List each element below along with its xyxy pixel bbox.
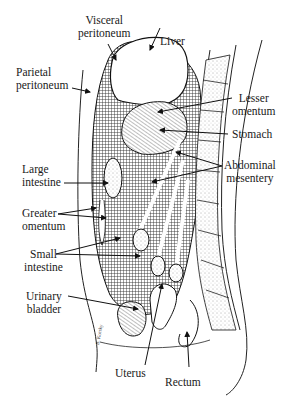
label-abdominal-mesentery: Abdominal mesentery — [224, 159, 276, 185]
label-uterus: Uterus — [115, 367, 146, 380]
label-rectum: Rectum — [165, 376, 201, 389]
label-greater-omentum: Greater omentum — [22, 207, 65, 233]
label-small-intestine: Small intestine — [24, 248, 63, 274]
label-liver: Liver — [160, 35, 185, 48]
label-visceral-peritoneum: Visceral peritoneum — [78, 14, 130, 40]
artist-signature: B. Korsky — [95, 324, 104, 346]
label-large-intestine: Large intestine — [22, 163, 61, 189]
label-stomach: Stomach — [232, 128, 272, 141]
label-lesser-omentum: Lesser omentum — [232, 92, 275, 118]
label-parietal-peritoneum: Parietal peritoneum — [16, 66, 68, 92]
diagram-illustration: B. Korsky — [0, 0, 293, 403]
label-urinary-bladder: Urinary bladder — [26, 290, 62, 316]
anatomy-diagram: B. Korsky Visceral peritoneum Liver Pari… — [0, 0, 293, 403]
